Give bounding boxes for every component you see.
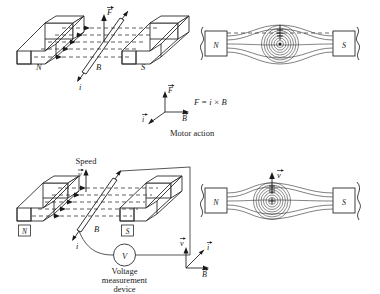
pole-block-north-generator-xs: N (205, 188, 227, 213)
legend-motor-label-force: F (167, 86, 173, 95)
legend-motor-label-field: B (182, 114, 187, 123)
svg-text:F: F (106, 7, 113, 17)
voltmeter-generator[interactable]: V (114, 244, 136, 266)
label-south-pole-motor-xs: S (342, 41, 346, 50)
pole-badge-north-generator: N (19, 225, 31, 236)
voltmeter-caption-line3: device (113, 284, 135, 294)
svg-text:S: S (126, 227, 130, 236)
legend-motor-equation: F = i × B (193, 97, 227, 107)
legend-generator-label-current: i (207, 243, 209, 252)
label-south-pole-generator-xs: S (342, 198, 346, 207)
label-field-motor: B (96, 62, 101, 72)
legend-motor-label-current: i (142, 115, 144, 124)
legend-generator-label-velocity: v (180, 239, 184, 248)
pole-block-south-generator-xs: S (333, 188, 355, 213)
svg-text:N: N (21, 227, 28, 236)
legend-motor-caption: Motor action (170, 128, 215, 138)
label-north-pole-generator-xs: N (212, 198, 219, 207)
conductor-dot-out-of-page-motor-xs (279, 43, 282, 46)
legend-generator-label-field: B (202, 270, 207, 279)
pole-block-north-motor-xs: N (205, 31, 227, 56)
label-north-pole-motor-xs: N (212, 41, 219, 50)
label-field-generator: B (94, 224, 99, 234)
caption-speed: Speed (76, 156, 98, 166)
physics-figure: N S (0, 0, 380, 294)
pole-badge-south-generator: S (122, 225, 134, 236)
svg-text:v: v (277, 170, 281, 180)
figure-canvas: N S (0, 0, 380, 294)
pole-block-south-motor-xs: S (333, 31, 355, 56)
